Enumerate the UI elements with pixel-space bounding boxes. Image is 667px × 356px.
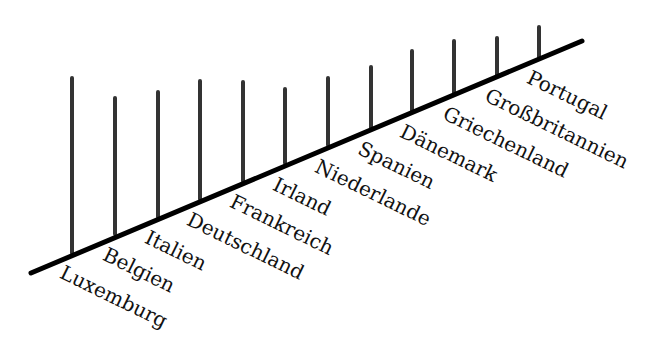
stick-group [72, 27, 539, 253]
